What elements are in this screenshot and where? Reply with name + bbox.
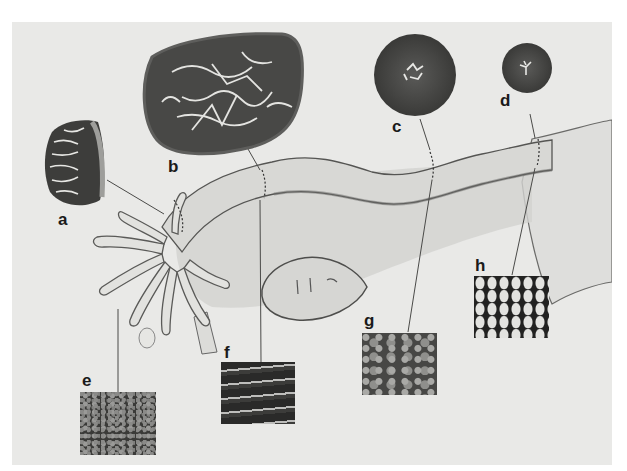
label-h: h	[475, 257, 485, 274]
cross-section-d	[502, 43, 552, 93]
cross-section-a	[45, 120, 104, 205]
micrograph-f	[221, 362, 295, 424]
label-a: a	[58, 211, 67, 228]
leader-d	[530, 114, 535, 138]
micrograph-g	[362, 333, 437, 395]
leader-c	[420, 119, 430, 150]
label-c: c	[392, 118, 401, 135]
micrograph-e	[80, 392, 156, 455]
label-d: d	[500, 92, 510, 109]
label-f: f	[224, 344, 230, 361]
oviduct-anatomy-figure: a b c d e f g h	[12, 22, 612, 465]
label-g: g	[364, 312, 374, 329]
cross-section-b	[144, 34, 302, 154]
fimbria-droplet	[139, 328, 155, 348]
label-b: b	[168, 158, 178, 175]
micrograph-h	[474, 276, 549, 338]
leader-a	[107, 180, 164, 214]
label-e: e	[82, 372, 91, 389]
cross-section-c	[374, 34, 456, 116]
